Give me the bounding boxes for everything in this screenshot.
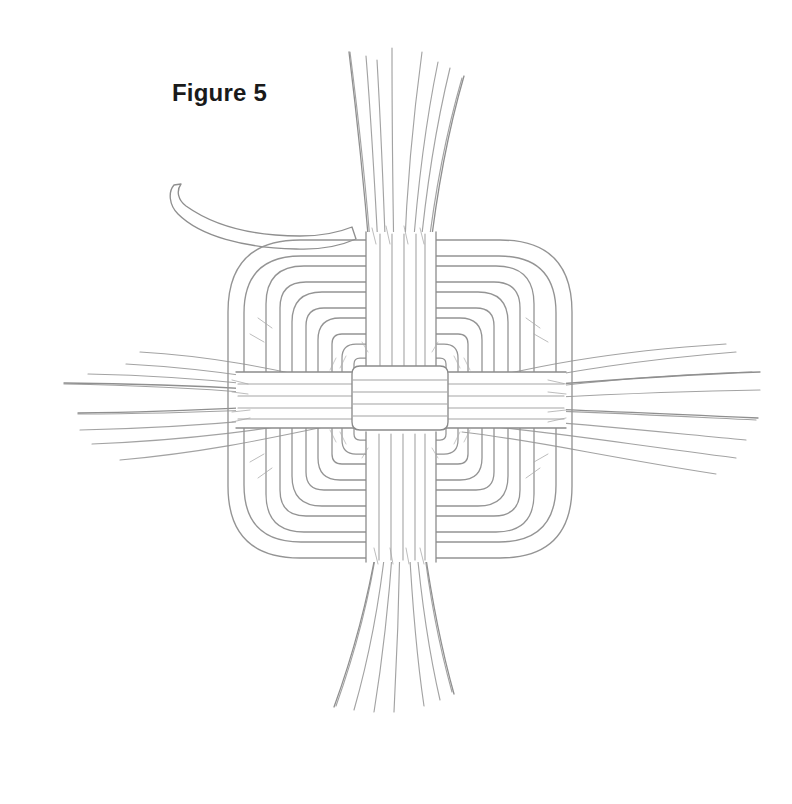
knot-illustration xyxy=(0,0,792,804)
center-vertical-plait-top xyxy=(366,232,436,366)
center-horizontal-band-right xyxy=(428,372,566,428)
figure-caption: Figure 5 xyxy=(172,79,267,107)
center-weave-box xyxy=(352,366,448,430)
center-vertical-plait-bottom xyxy=(366,432,436,562)
